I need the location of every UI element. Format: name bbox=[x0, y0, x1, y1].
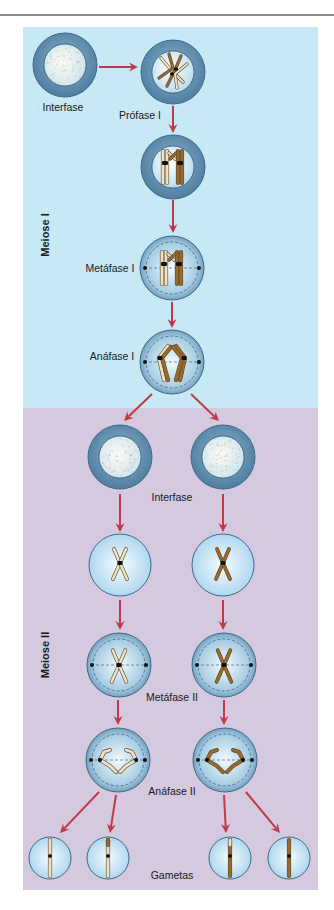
arrow bbox=[191, 394, 215, 417]
stage-label-profase-1: Prófase I bbox=[119, 109, 161, 121]
cell-anafase-2b bbox=[193, 728, 257, 792]
cell-profase-2b bbox=[192, 534, 254, 596]
cell-profase-1b bbox=[141, 135, 205, 199]
cell-profase-1 bbox=[141, 40, 205, 104]
cell-profase-2a bbox=[89, 534, 151, 596]
stage-label-anafase-2: Anáfase II bbox=[148, 785, 195, 797]
cell-metafase-2a bbox=[87, 633, 151, 697]
cells-layer bbox=[29, 33, 310, 879]
cell-metafase-2b bbox=[192, 633, 256, 697]
cell-interfase-2a bbox=[88, 425, 152, 489]
stage-label-metafase-2: Metáfase II bbox=[146, 691, 198, 703]
section-label-meiose2: Meiose II bbox=[39, 632, 51, 678]
cell-anafase-1 bbox=[140, 330, 204, 394]
arrow bbox=[224, 795, 226, 827]
section-label-meiose1: Meiose I bbox=[39, 213, 51, 256]
cell-metafase-1 bbox=[140, 236, 204, 300]
stage-label-anafase-1: Anáfase I bbox=[90, 350, 134, 362]
cell-gameta-2 bbox=[87, 837, 129, 879]
arrow bbox=[246, 792, 276, 828]
cell-interfase-1 bbox=[33, 33, 97, 97]
cell-gameta-1 bbox=[29, 837, 71, 879]
meiosis-diagram bbox=[0, 0, 334, 910]
cell-interfase-2b bbox=[191, 425, 255, 489]
arrow bbox=[128, 394, 152, 417]
stage-label-interfase-2: Interfase bbox=[152, 491, 193, 503]
cell-anafase-2a bbox=[86, 728, 150, 792]
stage-label-metafase-1: Metáfase I bbox=[85, 262, 134, 274]
stage-label-gametas: Gametas bbox=[151, 869, 194, 881]
cell-gameta-4 bbox=[268, 837, 310, 879]
cell-gameta-3 bbox=[209, 837, 251, 879]
arrow bbox=[111, 795, 116, 827]
stage-label-interfase-1: Interfase bbox=[43, 101, 84, 113]
arrow bbox=[64, 792, 99, 829]
